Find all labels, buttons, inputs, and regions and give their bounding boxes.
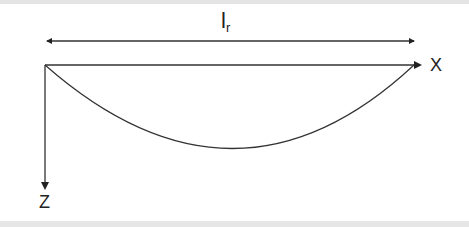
diagram-canvas [0,0,469,227]
x-axis-label: X [430,56,442,74]
z-axis-label: Z [39,193,50,211]
length-label-subscript: r [226,20,230,35]
length-label: lr [221,10,230,34]
sag-curve [45,65,414,149]
